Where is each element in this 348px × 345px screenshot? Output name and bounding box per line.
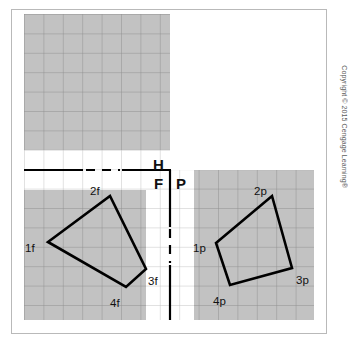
horizontal-plane-grid bbox=[24, 14, 170, 170]
copyright-notice: Copyright © 2015 Cengage Learning® bbox=[341, 65, 348, 188]
front-vertex-label-4f: 4f bbox=[110, 298, 120, 310]
profile-plane-grid bbox=[170, 170, 314, 320]
profile-vertex-label-3p: 3p bbox=[296, 275, 309, 287]
profile-plane-label: P bbox=[176, 176, 186, 191]
profile-vertex-label-1p: 1p bbox=[193, 243, 206, 255]
front-plane-label: F bbox=[154, 176, 163, 191]
horizontal-plane-label: H bbox=[153, 157, 164, 172]
front-vertex-label-1f: 1f bbox=[25, 243, 35, 255]
profile-vertex-label-2p: 2p bbox=[254, 186, 267, 198]
profile-vertex-label-4p: 4p bbox=[213, 296, 226, 308]
front-vertex-label-3f: 3f bbox=[148, 276, 158, 288]
front-vertex-label-2f: 2f bbox=[90, 186, 100, 198]
